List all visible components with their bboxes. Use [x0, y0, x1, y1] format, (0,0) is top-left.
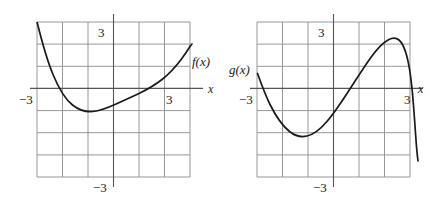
x-tick-negative-right: −3	[239, 92, 253, 107]
function-label-g: g(x)	[229, 62, 250, 77]
x-tick-positive-right: 3	[404, 92, 411, 107]
y-tick-positive-left: 3	[98, 25, 105, 40]
axes-right	[250, 14, 423, 187]
left-panel-svg: −3 3 3 −3 x f(x)	[0, 0, 220, 202]
x-axis-label-left: x	[207, 82, 214, 96]
y-tick-positive-right: 3	[318, 25, 325, 40]
chart-panel-left: −3 3 3 −3 x f(x)	[0, 0, 220, 202]
y-tick-negative-left: −3	[93, 180, 107, 195]
function-label-f: f(x)	[192, 54, 210, 69]
x-axis-label-right: x	[417, 82, 424, 96]
axes-left	[30, 14, 203, 187]
x-tick-negative-left: −3	[19, 92, 33, 107]
chart-panel-right: −3 3 3 −3 x g(x)	[220, 0, 440, 202]
right-panel-svg: −3 3 3 −3 x g(x)	[220, 0, 440, 202]
x-tick-positive-left: 3	[166, 92, 173, 107]
y-tick-negative-right: −3	[313, 180, 327, 195]
figure-root: −3 3 3 −3 x f(x)	[0, 0, 440, 202]
curve-f-tail	[191, 44, 193, 46]
curve-g	[258, 38, 419, 161]
